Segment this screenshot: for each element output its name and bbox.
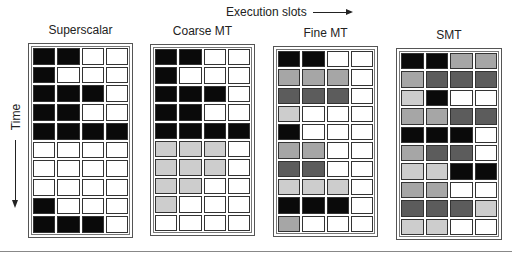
issue-slot [82, 67, 104, 84]
issue-slot [106, 67, 128, 84]
issue-slot [302, 51, 324, 67]
issue-slot [426, 127, 449, 143]
issue-slot [278, 142, 300, 158]
issue-slot [278, 51, 300, 67]
issue-slot [179, 86, 201, 102]
issue-slot [302, 106, 324, 122]
issue-slot [426, 200, 449, 216]
issue-slot [426, 145, 449, 161]
issue-slot [278, 216, 300, 232]
issue-slot [33, 85, 55, 102]
issue-slot [155, 178, 177, 194]
issue-slot [401, 71, 424, 87]
issue-slot [228, 215, 250, 231]
issue-slot [475, 90, 498, 106]
issue-slot [450, 127, 473, 143]
time-label: Time [9, 101, 23, 133]
issue-slot [351, 106, 373, 122]
issue-slot [401, 163, 424, 179]
issue-slot [351, 179, 373, 195]
issue-slot [155, 215, 177, 231]
issue-slot [57, 179, 79, 196]
issue-slot [33, 179, 55, 196]
issue-slot [179, 178, 201, 194]
issue-slot [228, 86, 250, 102]
execution-slots-label: Execution slots [226, 5, 351, 19]
issue-slot [475, 182, 498, 198]
issue-slot [228, 49, 250, 65]
issue-slot [179, 215, 201, 231]
issue-slot [106, 85, 128, 102]
issue-slot [426, 53, 449, 69]
issue-slot [278, 161, 300, 177]
issue-slot [155, 159, 177, 175]
issue-slot [82, 216, 104, 233]
issue-slot [179, 141, 201, 157]
issue-slot [82, 142, 104, 159]
issue-slot [106, 179, 128, 196]
issue-slot [302, 161, 324, 177]
issue-slot [179, 49, 201, 65]
issue-slot [401, 145, 424, 161]
issue-slot [401, 219, 424, 235]
issue-slot [450, 53, 473, 69]
issue-slot [179, 67, 201, 83]
issue-slot [351, 88, 373, 104]
issue-slot [475, 163, 498, 179]
issue-slot [204, 159, 226, 175]
issue-slot [33, 198, 55, 215]
issue-slot [278, 106, 300, 122]
issue-slot [179, 159, 201, 175]
issue-slot [204, 104, 226, 120]
issue-slot [401, 127, 424, 143]
arrow-down-icon [12, 200, 18, 208]
issue-slot [33, 104, 55, 121]
issue-slot [204, 86, 226, 102]
issue-slot [155, 141, 177, 157]
issue-slot [228, 196, 250, 212]
slot-grid [273, 46, 378, 237]
issue-slot [450, 200, 473, 216]
issue-slot [401, 200, 424, 216]
issue-slot [155, 67, 177, 83]
panel-fine-mt: Fine MT [273, 46, 378, 237]
issue-slot [204, 67, 226, 83]
issue-slot [204, 49, 226, 65]
issue-slot [33, 160, 55, 177]
issue-slot [57, 198, 79, 215]
bottom-divider [0, 251, 512, 252]
issue-slot [57, 67, 79, 84]
issue-slot [475, 145, 498, 161]
issue-slot [450, 182, 473, 198]
issue-slot [278, 179, 300, 195]
issue-slot [426, 219, 449, 235]
issue-slot [33, 123, 55, 140]
issue-slot [450, 145, 473, 161]
issue-slot [327, 161, 349, 177]
issue-slot [302, 69, 324, 85]
issue-slot [33, 216, 55, 233]
issue-slot [57, 85, 79, 102]
issue-slot [106, 160, 128, 177]
issue-slot [351, 69, 373, 85]
issue-slot [204, 123, 226, 139]
issue-slot [82, 123, 104, 140]
arrow-right-icon [313, 12, 351, 13]
panel-title: Superscalar [28, 23, 133, 37]
issue-slot [204, 178, 226, 194]
issue-slot [327, 106, 349, 122]
issue-slot [278, 88, 300, 104]
issue-slot [204, 215, 226, 231]
issue-slot [155, 86, 177, 102]
slot-grid [396, 48, 502, 240]
issue-slot [57, 104, 79, 121]
time-arrow-line [15, 140, 16, 202]
issue-slot [57, 142, 79, 159]
issue-slot [106, 216, 128, 233]
issue-slot [82, 104, 104, 121]
issue-slot [228, 159, 250, 175]
issue-slot [57, 123, 79, 140]
issue-slot [302, 197, 324, 213]
issue-slot [106, 123, 128, 140]
issue-slot [82, 198, 104, 215]
